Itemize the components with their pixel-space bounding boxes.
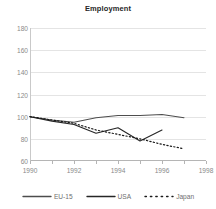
line-dotted-icon (144, 193, 174, 200)
y-tick-label: 80 (6, 135, 28, 142)
legend-label: USA (118, 193, 132, 200)
x-tick-label: 1992 (59, 167, 89, 174)
y-tick-label: 60 (6, 158, 28, 165)
x-tick-label: 1990 (15, 167, 45, 174)
employment-chart: Employment 1801601401201008060 199019921… (0, 0, 216, 209)
x-tick-mark (184, 161, 185, 164)
x-tick-mark (140, 161, 141, 164)
legend-item-eu-15[interactable]: EU-15 (22, 193, 73, 200)
x-tick-mark (74, 161, 75, 164)
line-solid-icon (22, 193, 52, 200)
x-tick-mark (52, 161, 53, 164)
series-layer (30, 28, 206, 161)
y-axis-tick-labels: 1801601401201008060 (0, 28, 28, 161)
series-line-usa (30, 117, 162, 141)
y-tick-label: 100 (6, 113, 28, 120)
x-axis-tick-labels: 19901992199419961998 (30, 164, 206, 178)
legend-item-usa[interactable]: USA (86, 193, 132, 200)
legend-label: EU-15 (54, 193, 73, 200)
legend-label: Japan (176, 193, 194, 200)
x-tick-mark (206, 161, 207, 164)
x-tick-mark (162, 161, 163, 164)
chart-title: Employment (0, 4, 216, 13)
x-tick-label: 1994 (103, 167, 133, 174)
x-tick-mark (118, 161, 119, 164)
chart-legend: EU-15USAJapan (0, 188, 216, 204)
legend-item-japan[interactable]: Japan (144, 193, 194, 200)
x-tick-mark (30, 161, 31, 164)
line-solid-icon (86, 193, 116, 200)
y-tick-label: 180 (6, 25, 28, 32)
y-tick-label: 140 (6, 69, 28, 76)
x-tick-label: 1998 (191, 167, 216, 174)
x-tick-label: 1996 (147, 167, 177, 174)
x-tick-mark (96, 161, 97, 164)
y-tick-label: 120 (6, 91, 28, 98)
y-tick-label: 160 (6, 47, 28, 54)
